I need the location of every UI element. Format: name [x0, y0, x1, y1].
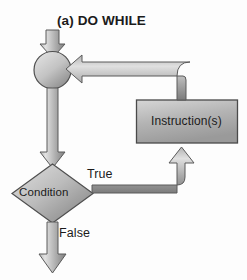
flowchart-diagram: (a) DO WHILE Condition Instruction(s) Tr…	[0, 0, 247, 280]
edge-label-false: False	[59, 227, 90, 240]
condition-node-label: Condition	[19, 187, 69, 199]
edge-label-true: True	[87, 168, 113, 181]
instruction-node-label: Instruction(s)	[151, 115, 222, 127]
instruction-loopback-arrow	[66, 55, 190, 100]
flowchart-canvas	[0, 0, 247, 280]
diagram-title: (a) DO WHILE	[57, 14, 146, 28]
connector-to-condition-arrow	[40, 88, 65, 168]
merge-connector-circle	[34, 52, 71, 89]
